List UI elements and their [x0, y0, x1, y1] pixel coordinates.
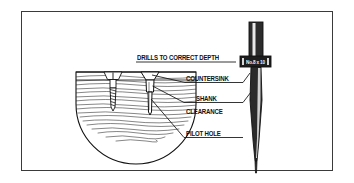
drill-bit-point [255, 161, 257, 173]
combination-drill-bit [240, 22, 271, 173]
illustration-stage: DRILLS TO CORRECT DEPTH COUNTERSINK SHAN… [0, 0, 354, 183]
wood-cross-section [74, 72, 198, 164]
label-shank: SHANK [196, 94, 217, 103]
label-clearance: CLEARANCE [186, 107, 223, 116]
drill-bit-size-marking: No.8 x 10 [245, 58, 266, 67]
drill-bit-highlight [253, 23, 256, 56]
technical-illustration [0, 0, 354, 183]
leader-countersink-hook [243, 73, 250, 83]
label-drills-to-correct-depth: DRILLS TO CORRECT DEPTH [137, 53, 219, 62]
label-countersink: COUNTERSINK [186, 74, 229, 83]
label-pilot-hole: PILOT HOLE [186, 129, 221, 138]
